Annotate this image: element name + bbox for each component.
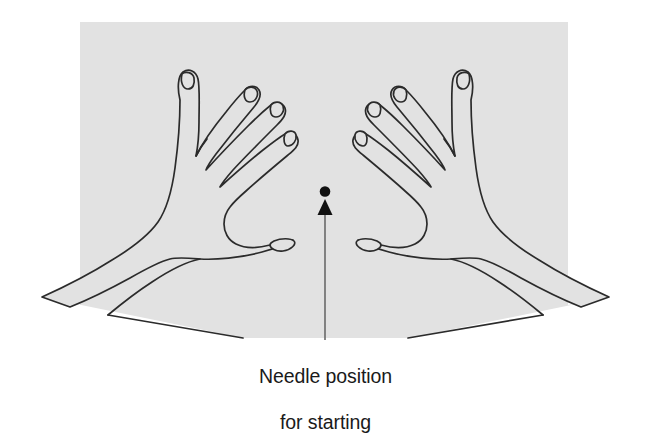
- right-nail-index: [457, 72, 470, 89]
- caption-line-1: Needle position: [0, 365, 651, 388]
- needle-point-dot-icon: [320, 186, 331, 197]
- caption: Needle position for starting: [0, 342, 651, 437]
- caption-line-2: for starting: [0, 411, 651, 434]
- left-nail-index: [181, 72, 194, 89]
- right-nail-ring: [367, 102, 380, 117]
- left-nail-middle: [244, 87, 257, 102]
- left-nail-ring: [270, 102, 283, 117]
- right-nail-middle: [393, 87, 406, 102]
